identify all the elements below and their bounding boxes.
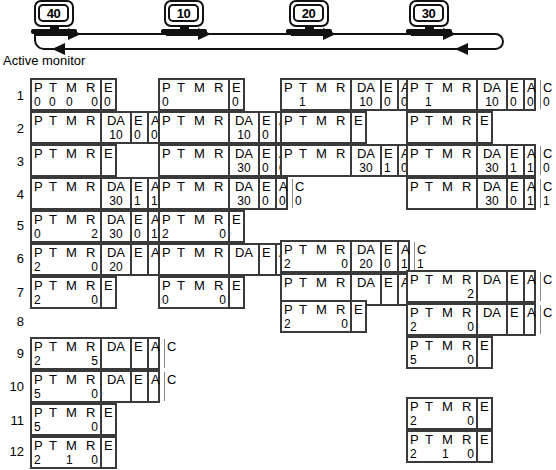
frame-c4-r3-r: R — [460, 146, 476, 175]
frame-c1-r10-e-value — [132, 387, 147, 401]
frame-c1-r9-t-header: T — [47, 339, 64, 354]
frame-c2-r7-p: P0 — [160, 278, 175, 307]
frame-c3-r6-e-header: E — [382, 242, 397, 257]
frame-c1-r7-p-value: 2 — [32, 293, 47, 307]
frame-c1-r2-r-header: R — [84, 113, 100, 128]
frame-c1-r11-m-header: M — [64, 405, 84, 420]
frame-c2-r2-m: M — [192, 113, 212, 142]
frame-c1-r10-m: M — [64, 372, 84, 401]
frame-c4-r8-frame-status: AC — [525, 305, 556, 334]
frame-c1-r10-frame-status: AC — [149, 372, 180, 401]
frame-c4-r1-t-header: T — [423, 80, 440, 95]
frame-c2-r4-t: T — [175, 179, 192, 208]
frame-c4-r11-p: P2 — [408, 399, 423, 428]
frame-c2-r5-access-control: P2TMR0 — [160, 212, 230, 241]
frame-c4-r12-t-header: T — [423, 432, 440, 447]
frame-c4-r8-da: DA — [478, 305, 506, 334]
frame-c3-r3-p-value — [282, 161, 297, 175]
frame-c3-r3-p-header: P — [282, 146, 297, 161]
frame-c1-r1-r: R0 — [84, 80, 100, 109]
frame-c1-r4-t-value — [47, 194, 64, 208]
frame-c1-r7-m-header: M — [64, 278, 84, 293]
frame-c1-r9-c: C — [164, 339, 180, 368]
frame-c1-r2-da-value: 10 — [102, 128, 130, 142]
frame-c4-r3-m-header: M — [440, 146, 460, 161]
frame-c4-r8-c-value — [541, 320, 556, 334]
frame-c1-r12-e-value — [102, 453, 119, 467]
frame-c3-r6-m: M — [314, 242, 334, 271]
frame-c1-r10-m-header: M — [64, 372, 84, 387]
frame-c1-r10-da-header: DA — [102, 372, 130, 387]
frame-c4-r3-e-header: E — [508, 146, 523, 161]
frame-c2-r6-p: P — [160, 245, 175, 274]
frame-c3-r7-t-header: T — [297, 275, 314, 290]
frame-c1-r2-da-header: DA — [102, 113, 130, 128]
frame-c2-r5-status: E — [230, 212, 247, 241]
frame-c3-r2-e-header: E — [352, 113, 369, 128]
frame-c2-r7-t-header: T — [175, 278, 192, 293]
frame-c2-r5-e: E — [230, 212, 247, 241]
frame-c1-r12-t-value — [47, 453, 64, 467]
frame-c4-r12-m-header: M — [440, 432, 460, 447]
frame-c3-r2-m-header: M — [314, 113, 334, 128]
monitor-base-foot-icon — [411, 33, 447, 36]
frame-c4-r12-p-value: 2 — [408, 447, 423, 461]
frame-c2-r1-e-header: E — [230, 80, 247, 95]
frame-c2-r4-p-header: P — [160, 179, 175, 194]
frame-c4-r3-c: C0 — [540, 146, 556, 175]
frame-c4-r9-r-value: 0 — [460, 353, 476, 367]
frame-c4-r7-e-value — [508, 287, 523, 301]
frame-c2-r4-error-detected: E0 — [260, 179, 277, 208]
frame-c4-r11-status: E — [478, 399, 495, 428]
station-address-label: 40 — [38, 4, 69, 22]
frame-c1-r7-access-control: P2TMR0 — [32, 278, 102, 307]
frame-c4-r8-t-value — [423, 320, 440, 334]
frame-c1-r10: P5TMR0DAEAC — [30, 370, 160, 403]
frame-c4-r8-access-control: P2TMR0 — [408, 305, 478, 334]
frame-c2-r3-da-header: DA — [230, 146, 258, 161]
frame-c1-r9-m-header: M — [64, 339, 84, 354]
frame-c1-r9-r-value: 5 — [84, 354, 100, 368]
frame-c1-r12-e: E — [102, 438, 119, 467]
frame-c1-r9-a-header: A — [149, 339, 164, 354]
frame-c3-r6-da-header: DA — [352, 242, 380, 257]
frame-c2-r4-r: R — [212, 179, 228, 208]
frame-c1-r4-t-header: T — [47, 179, 64, 194]
frame-c3-r8-e: E — [352, 302, 369, 331]
frame-c3-r3-da-value: 30 — [352, 161, 380, 175]
frame-c3-r3-da-header: DA — [352, 146, 380, 161]
frame-c1-r12-r: R0 — [84, 438, 100, 467]
frame-c1-r10-access-control: P5TMR0 — [32, 372, 102, 401]
frame-c4-r1-da-value: 10 — [478, 95, 506, 109]
frame-c1-r11-p-header: P — [32, 405, 47, 420]
frame-c4-r1-frame-status: A0C0 — [525, 80, 556, 109]
frame-c4-r8-a-header: A — [525, 305, 540, 320]
frame-c1-r12-r-value: 0 — [84, 453, 100, 467]
frame-c2-r4-c-header: C — [293, 179, 308, 194]
frame-c4-r1-a-value: 0 — [525, 95, 540, 109]
frame-c3-r6-destination-address: DA20 — [352, 242, 382, 271]
frame-c1-r3-t-header: T — [47, 146, 64, 161]
frame-c4-r1-access-control: PT1MR — [408, 80, 478, 109]
frame-c4-r7-m: M — [440, 272, 460, 301]
frame-c1-r9-da-header: DA — [102, 339, 130, 354]
frame-c1-r10-p-header: P — [32, 372, 47, 387]
frame-c3-r1-t-header: T — [297, 80, 314, 95]
frame-c1-r11-m-value — [64, 420, 84, 434]
frame-c1-r1-status: E0 — [102, 80, 119, 109]
frame-c1-r11-e-value — [102, 420, 119, 434]
station-address-label: 10 — [168, 4, 199, 22]
frame-c1-r2-r-value — [84, 128, 100, 142]
frame-c2-r6-m-header: M — [192, 245, 212, 260]
frame-c1-r10-c-header: C — [165, 372, 180, 387]
frame-c4-r1-a: A0 — [525, 80, 540, 109]
frame-c1-r3-m: M — [64, 146, 84, 175]
frame-c4-r9-status: E — [478, 338, 495, 367]
frame-c4-r9-r-header: R — [460, 338, 476, 353]
frame-c2-r6: PTMRDAEAC — [158, 243, 288, 276]
frame-c1-r1-e-value: 0 — [102, 95, 119, 109]
frame-c4-r1-m-value — [440, 95, 460, 109]
frame-c4-r8-a-value — [525, 320, 540, 334]
frame-c4-r11: P2TMR0E — [406, 397, 493, 430]
frame-c4-r2-access-control: PTMR — [408, 113, 478, 142]
